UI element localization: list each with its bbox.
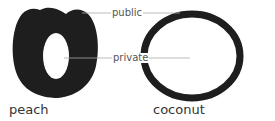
private-label: private: [112, 53, 149, 63]
public-label: public: [111, 8, 143, 18]
coconut-ring: [144, 14, 240, 98]
peach-caption: peach: [9, 103, 49, 116]
coconut-caption: coconut: [153, 103, 205, 116]
peach-hole: [43, 33, 69, 79]
